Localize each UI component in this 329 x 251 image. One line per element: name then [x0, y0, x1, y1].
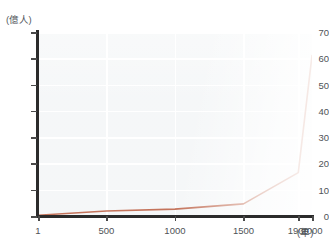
y-axis-tick-label: 20 — [299, 158, 329, 169]
y-axis-tick-label: 30 — [299, 132, 329, 143]
y-axis-tick — [31, 190, 37, 192]
y-axis-tick-label: 0 — [299, 211, 329, 222]
x-axis-tick — [38, 216, 40, 221]
population-growth-chart: (億人) 010203040506070 1500100015001900200… — [0, 0, 329, 251]
x-axis-tick — [175, 216, 177, 221]
y-axis-tick — [31, 32, 37, 34]
x-axis-tick — [243, 216, 245, 221]
y-axis-tick — [31, 111, 37, 113]
y-axis-tick-label: 60 — [299, 53, 329, 64]
series-line-world-population — [38, 32, 312, 216]
y-axis-tick-label: 10 — [299, 184, 329, 195]
y-axis-tick-label: 70 — [299, 27, 329, 38]
y-axis-tick — [31, 216, 37, 218]
y-axis-tick — [31, 58, 37, 60]
x-axis-tick-label: 500 — [98, 225, 114, 236]
x-axis-tick — [312, 216, 314, 221]
x-axis-tick — [298, 216, 300, 221]
x-axis-tick-label: 1 — [35, 225, 40, 236]
y-axis-unit-label: (億人) — [6, 12, 32, 26]
y-axis-tick-label: 40 — [299, 105, 329, 116]
x-axis-unit-label: (年) — [297, 225, 313, 239]
plot-area — [38, 32, 312, 216]
x-axis-tick-label: 1500 — [233, 225, 254, 236]
y-axis-tick — [31, 163, 37, 165]
y-axis-tick — [31, 85, 37, 87]
y-axis-tick — [31, 137, 37, 139]
y-axis-tick-label: 50 — [299, 79, 329, 90]
x-axis-tick-label: 1000 — [164, 225, 185, 236]
x-axis-tick — [106, 216, 108, 221]
